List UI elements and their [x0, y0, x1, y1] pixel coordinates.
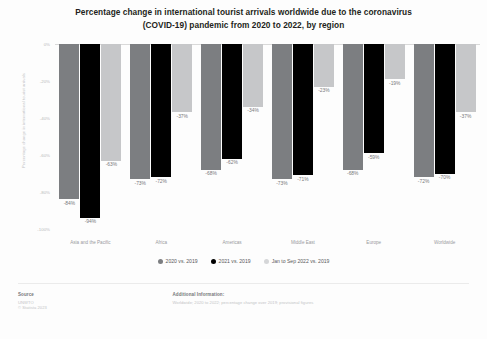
- chart-legend: 2020 vs. 20192021 vs. 2019Jan to Sep 202…: [0, 258, 487, 264]
- bar-value-label: -72%: [156, 179, 167, 184]
- bar-slot: -73%: [272, 44, 292, 229]
- bar[interactable]: [293, 44, 313, 175]
- legend-swatch-icon: [158, 259, 163, 264]
- bar-value-label: -63%: [106, 162, 117, 167]
- y-tick-label: -40%: [40, 116, 50, 121]
- y-tick-label: -20%: [40, 79, 50, 84]
- bar[interactable]: [59, 44, 79, 199]
- bar-value-label: -68%: [205, 171, 216, 176]
- bar-value-label: -37%: [460, 114, 471, 119]
- additional-info-heading: Additional Information:: [173, 292, 470, 297]
- x-axis-category-label: Europe: [366, 240, 381, 245]
- bar-value-label: -59%: [368, 155, 379, 160]
- bar[interactable]: [343, 44, 363, 170]
- bar[interactable]: [130, 44, 150, 179]
- bar-value-label: -73%: [135, 181, 146, 186]
- y-tick-label: -100%: [37, 227, 50, 232]
- legend-label: 2020 vs. 2019: [166, 258, 198, 264]
- bar[interactable]: [80, 44, 100, 218]
- source-copyright: © Statista 2023: [18, 305, 145, 311]
- chart-card: Percentage change in international touri…: [0, 0, 487, 339]
- bar-value-label: -73%: [276, 181, 287, 186]
- bar[interactable]: [456, 44, 476, 112]
- bar[interactable]: [364, 44, 384, 153]
- bar-group: -73%-71%-23%: [268, 44, 339, 229]
- bar-group: -84%-94%-63%: [55, 44, 126, 229]
- bar-slot: -72%: [414, 44, 434, 229]
- bar[interactable]: [385, 44, 405, 79]
- legend-item[interactable]: Jan to Sep 2022 vs. 2019: [264, 258, 330, 264]
- bar-slot: -34%: [243, 44, 263, 229]
- bar-slot: -71%: [293, 44, 313, 229]
- x-axis-category-label: Worldwide: [434, 240, 455, 245]
- additional-info-block: Additional Information: Worldwide; 2020 …: [173, 292, 470, 311]
- bar-slot: -73%: [130, 44, 150, 229]
- bar-value-label: -70%: [439, 175, 450, 180]
- bar-slot: -70%: [435, 44, 455, 229]
- bar-slot: -84%: [59, 44, 79, 229]
- bar-value-label: -19%: [389, 81, 400, 86]
- chart-footer: Source UNWTO © Statista 2023 Additional …: [18, 292, 469, 311]
- bar-value-label: -84%: [64, 201, 75, 206]
- x-axis-category-label: Africa: [155, 240, 167, 245]
- bar[interactable]: [201, 44, 221, 170]
- bar[interactable]: [435, 44, 455, 174]
- bar-value-label: -23%: [318, 88, 329, 93]
- legend-label: 2021 vs. 2019: [219, 258, 251, 264]
- bar[interactable]: [172, 44, 192, 112]
- legend-swatch-icon: [211, 259, 216, 264]
- plot-area: Percentage change in international touri…: [0, 40, 487, 240]
- bar-slot: -68%: [201, 44, 221, 229]
- bar-slot: -23%: [314, 44, 334, 229]
- bar-value-label: -34%: [247, 108, 258, 113]
- bar[interactable]: [414, 44, 434, 177]
- bar[interactable]: [101, 44, 121, 161]
- bar-slot: -94%: [80, 44, 100, 229]
- bar-value-label: -72%: [418, 179, 429, 184]
- y-tick-label: -60%: [40, 153, 50, 158]
- additional-info-text: Worldwide; 2020 to 2022; percentage chan…: [173, 300, 470, 306]
- x-axis-category-label: Asia and the Pacific: [70, 240, 110, 245]
- x-axis-category-label: Americas: [223, 240, 242, 245]
- bar-group: -72%-70%-37%: [409, 44, 480, 229]
- bar[interactable]: [151, 44, 171, 177]
- bar-group: -68%-62%-34%: [197, 44, 268, 229]
- bar-slot: -59%: [364, 44, 384, 229]
- footer-divider: [18, 283, 469, 284]
- bar-value-label: -37%: [177, 114, 188, 119]
- bar-slot: -63%: [101, 44, 121, 229]
- chart-title-line-1: Percentage change in international touri…: [0, 6, 487, 19]
- bar[interactable]: [314, 44, 334, 87]
- x-axis-category-label: Middle East: [291, 240, 315, 245]
- bar-value-label: -68%: [347, 171, 358, 176]
- bar-slot: -37%: [172, 44, 192, 229]
- y-axis-ticks: 0%-20%-40%-60%-80%-100%: [22, 40, 50, 240]
- plot-canvas: -84%-94%-63%Asia and the Pacific-73%-72%…: [55, 44, 480, 229]
- bar-slot: -62%: [222, 44, 242, 229]
- bar-value-label: -71%: [297, 177, 308, 182]
- chart-title-line-2: (COVID-19) pandemic from 2020 to 2022, b…: [0, 19, 487, 32]
- legend-item[interactable]: 2020 vs. 2019: [158, 258, 198, 264]
- bar[interactable]: [272, 44, 292, 179]
- bar-slot: -68%: [343, 44, 363, 229]
- legend-label: Jan to Sep 2022 vs. 2019: [272, 258, 330, 264]
- bar-slot: -19%: [385, 44, 405, 229]
- bar-group: -73%-72%-37%: [126, 44, 197, 229]
- bar-value-label: -62%: [226, 160, 237, 165]
- bar-slot: -72%: [151, 44, 171, 229]
- bar-slot: -37%: [456, 44, 476, 229]
- legend-swatch-icon: [264, 259, 269, 264]
- y-tick-label: -80%: [40, 190, 50, 195]
- bar-value-label: -94%: [85, 219, 96, 224]
- chart-title: Percentage change in international touri…: [0, 6, 487, 31]
- bar-group: -68%-59%-19%: [338, 44, 409, 229]
- legend-item[interactable]: 2021 vs. 2019: [211, 258, 251, 264]
- y-tick-label: 0%: [44, 42, 50, 47]
- bar[interactable]: [243, 44, 263, 107]
- bar[interactable]: [222, 44, 242, 159]
- source-block: Source UNWTO © Statista 2023: [18, 292, 145, 311]
- source-heading: Source: [18, 292, 145, 297]
